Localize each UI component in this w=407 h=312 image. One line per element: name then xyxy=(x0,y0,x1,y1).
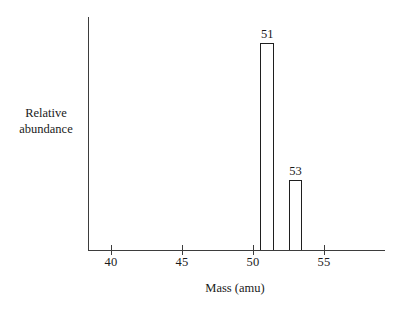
bar-peak-53 xyxy=(289,180,303,250)
x-axis-title: Mass (amu) xyxy=(155,280,315,296)
bar-label-peak-51: 51 xyxy=(247,27,287,41)
bar-label-peak-53: 53 xyxy=(276,164,316,178)
mass-spectrum-chart: Relative abundance 40 45 50 55 51 53 Mas… xyxy=(0,0,407,312)
bar-peak-51 xyxy=(260,43,274,250)
plot-area: 51 53 xyxy=(0,0,407,312)
